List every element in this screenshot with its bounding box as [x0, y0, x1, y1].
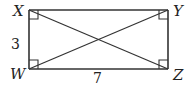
vertex-label-w: W — [10, 65, 27, 83]
side-length-wz: 7 — [93, 70, 102, 86]
vertex-label-x: X — [12, 2, 25, 20]
vertex-label-y: Y — [173, 2, 185, 20]
diagonals — [29, 10, 168, 69]
side-length-xw: 3 — [11, 36, 20, 52]
vertex-label-z: Z — [172, 66, 184, 84]
rectangle-diagram: X Y W Z 3 7 — [0, 0, 194, 89]
